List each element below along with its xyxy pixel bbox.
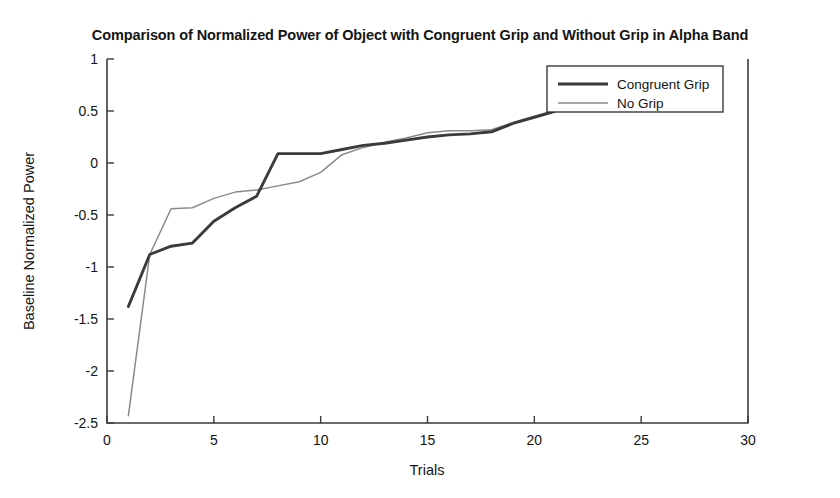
axis-frame xyxy=(107,59,748,423)
y-tick-label: -1 xyxy=(86,259,99,275)
legend: Congruent Grip No Grip xyxy=(547,66,723,112)
y-tick-label: 0.5 xyxy=(79,103,99,119)
x-axis-ticks xyxy=(107,416,748,423)
x-axis-title: Trials xyxy=(410,462,445,478)
x-axis-tick-labels: 051015202530 xyxy=(103,432,756,448)
y-axis-title: Baseline Normalized Power xyxy=(21,152,37,330)
y-axis-ticks xyxy=(107,59,114,423)
series-line-no-grip xyxy=(128,111,555,416)
y-tick-label: -0.5 xyxy=(74,207,98,223)
legend-label-congruent-grip: Congruent Grip xyxy=(617,77,709,92)
x-tick-label: 15 xyxy=(420,432,436,448)
y-tick-label: 0 xyxy=(90,155,98,171)
y-tick-label: -2 xyxy=(86,363,99,379)
x-tick-label: 30 xyxy=(740,432,756,448)
figure-canvas: Comparison of Normalized Power of Object… xyxy=(0,0,840,498)
x-tick-label: 20 xyxy=(527,432,543,448)
y-tick-label: 1 xyxy=(90,51,98,67)
y-axis-tick-labels: 10.50-0.5-1-1.5-2-2.5 xyxy=(74,51,98,431)
x-tick-label: 0 xyxy=(103,432,111,448)
x-tick-label: 25 xyxy=(633,432,649,448)
x-tick-label: 10 xyxy=(313,432,329,448)
line-chart: 10.50-0.5-1-1.5-2-2.5 051015202530 Trial… xyxy=(0,0,840,498)
y-tick-label: -1.5 xyxy=(74,311,98,327)
x-tick-label: 5 xyxy=(210,432,218,448)
y-tick-label: -2.5 xyxy=(74,415,98,431)
series-line-congruent-grip xyxy=(128,111,555,307)
legend-label-no-grip: No Grip xyxy=(617,96,664,111)
